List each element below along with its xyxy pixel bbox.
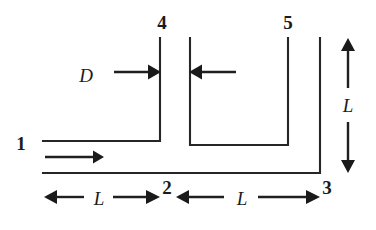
dimension-L-bottom-right-arrow-head-left [176,190,189,204]
dimension-L-bottom-right: L [176,188,320,209]
inlet-flow-arrow [45,151,104,164]
station-label-3: 3 [322,177,332,198]
inlet-top-and-left-riser-inner-wall [43,38,160,141]
dimension-L-bottom-left-label: L [93,188,105,209]
dimension-D-label: D [78,65,93,86]
station-label-2: 2 [162,177,172,198]
station-label-5: 5 [283,12,293,33]
station-label-4: 4 [157,12,167,33]
dimension-D: D [78,65,236,87]
dimension-L-bottom-left-arrow-head-right [146,190,160,204]
duct-walls [43,38,320,173]
outer-bottom-and-right-riser-wall [43,38,320,173]
station-label-1: 1 [16,133,26,154]
dimension-L-bottom-right-label: L [236,188,248,209]
u-channel-wall [190,38,288,145]
dimension-L-bottom-right-arrow-head-right [306,190,320,204]
dimension-L-bottom-left: L [44,188,160,209]
dimension-L-right-label: L [342,95,354,116]
station-labels: 1 2 3 4 5 [16,12,332,198]
inlet-flow-arrow-head [93,151,104,164]
dimension-L-right-vertical: L [341,38,355,173]
duct-flow-diagram: D L L L [0,0,376,230]
dimension-L-bottom-left-arrow-head-left [44,190,57,204]
dimension-L-right-arrow-head-up [341,38,355,51]
diagram-canvas: D L L L [0,0,376,230]
dimension-L-right-arrow-head-down [341,160,355,173]
